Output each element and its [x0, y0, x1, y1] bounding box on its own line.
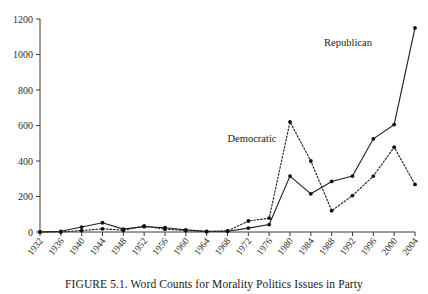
- x-tick-label: 1956: [150, 236, 170, 257]
- x-tick-label: 1976: [255, 236, 275, 257]
- y-tick-label: 1200: [13, 14, 33, 25]
- data-point: [101, 227, 105, 231]
- x-tick-label: 1968: [213, 236, 233, 257]
- data-point: [330, 180, 334, 184]
- x-tick-label: 1932: [25, 236, 45, 257]
- x-tick-label: 1988: [317, 236, 337, 257]
- y-tick-label: 600: [18, 120, 33, 131]
- data-point: [351, 174, 355, 178]
- data-point: [205, 230, 209, 234]
- data-point: [101, 221, 105, 225]
- series-annotations: RepublicanDemocratic: [228, 37, 373, 144]
- x-tick-label: 1940: [67, 236, 87, 257]
- x-tick-label: 1992: [338, 236, 358, 257]
- y-tick-label: 1000: [13, 49, 33, 60]
- data-point: [288, 120, 292, 124]
- series-line-republican: [40, 28, 415, 232]
- x-tick-label: 2000: [380, 236, 400, 257]
- x-tick-label: 1944: [88, 236, 108, 257]
- y-tick-label: 400: [18, 156, 33, 167]
- data-point: [246, 226, 250, 230]
- line-chart: 0200400600800100012001932193619401944194…: [0, 0, 428, 270]
- x-tick-label: 1980: [275, 236, 295, 257]
- data-point: [80, 229, 84, 233]
- series-label-republican: Republican: [324, 37, 373, 48]
- x-tick-label: 2004: [400, 236, 420, 257]
- data-point: [38, 230, 42, 234]
- data-point: [184, 229, 188, 233]
- x-tick-label: 1952: [130, 236, 150, 257]
- data-point: [226, 229, 230, 233]
- y-tick-label: 800: [18, 85, 33, 96]
- x-tick-label: 1936: [46, 236, 66, 257]
- data-point: [267, 216, 271, 220]
- x-tick-label: 1960: [171, 236, 191, 257]
- data-point: [392, 145, 396, 149]
- data-point: [59, 230, 63, 234]
- x-axis-ticks: 1932193619401944194819521956196019641968…: [25, 232, 420, 257]
- data-point: [371, 174, 375, 178]
- x-tick-label: 1972: [234, 236, 254, 257]
- data-point: [413, 26, 417, 30]
- series-label-democratic: Democratic: [228, 133, 277, 144]
- x-tick-label: 1948: [109, 236, 129, 257]
- y-tick-label: 200: [18, 191, 33, 202]
- data-point: [121, 228, 125, 232]
- data-point: [267, 223, 271, 227]
- data-point: [330, 209, 334, 213]
- y-axis-ticks: 020040060080010001200: [13, 14, 40, 238]
- data-point: [288, 174, 292, 178]
- data-point: [80, 225, 84, 229]
- figure-caption: FIGURE 5.1. Word Counts for Morality Pol…: [0, 278, 428, 290]
- data-point: [246, 219, 250, 223]
- data-point: [392, 123, 396, 127]
- data-point: [142, 224, 146, 228]
- data-point: [309, 192, 313, 196]
- x-tick-label: 1964: [192, 236, 212, 257]
- x-tick-label: 1996: [359, 236, 379, 257]
- data-point: [413, 183, 417, 187]
- figure-container: 0200400600800100012001932193619401944194…: [0, 0, 428, 294]
- data-point: [309, 159, 313, 163]
- x-tick-label: 1984: [296, 236, 316, 257]
- chart-axes: [40, 19, 415, 232]
- data-point: [163, 227, 167, 231]
- y-tick-label: 0: [28, 227, 33, 238]
- series-republican: [38, 26, 417, 234]
- data-point: [351, 194, 355, 198]
- data-point: [371, 137, 375, 141]
